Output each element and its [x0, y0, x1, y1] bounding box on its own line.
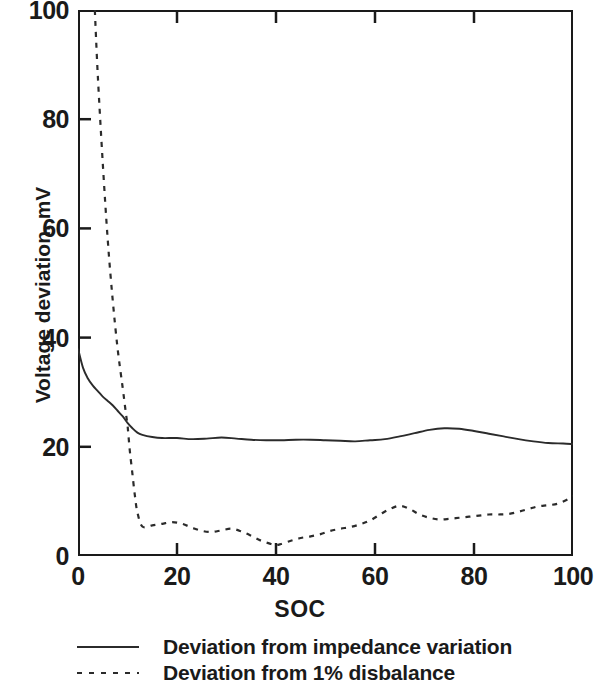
legend-item-1: Deviation from 1% disbalance [75, 660, 595, 686]
x-tick-label-60: 60 [362, 562, 389, 591]
legend-label: Deviation from 1% disbalance [163, 661, 455, 685]
x-tick-label-0: 0 [71, 562, 84, 591]
x-axis-title: SOC [0, 596, 600, 623]
x-tick-label-80: 80 [461, 562, 488, 591]
x-tick-label-40: 40 [263, 562, 290, 591]
legend-item-0: Deviation from impedance variation [75, 634, 595, 660]
x-tick-label-20: 20 [164, 562, 191, 591]
y-tick-label-20: 20 [42, 432, 69, 461]
y-axis-title: Voltage deviation, mV [31, 135, 55, 455]
plot-area [78, 10, 573, 556]
y-tick-label-0: 0 [56, 542, 69, 571]
x-tick-label-100: 100 [553, 562, 593, 591]
chart-figure: Voltage deviation, mV SOC 020406080100 0… [0, 0, 600, 686]
y-tick-label-100: 100 [29, 0, 69, 25]
chart-legend: Deviation from impedance variationDeviat… [75, 634, 595, 686]
legend-label: Deviation from impedance variation [163, 635, 512, 659]
dashed-line-icon [75, 666, 141, 680]
solid-line-icon [75, 640, 141, 654]
y-tick-label-60: 60 [42, 214, 69, 243]
y-tick-label-40: 40 [42, 323, 69, 352]
y-tick-label-80: 80 [42, 105, 69, 134]
